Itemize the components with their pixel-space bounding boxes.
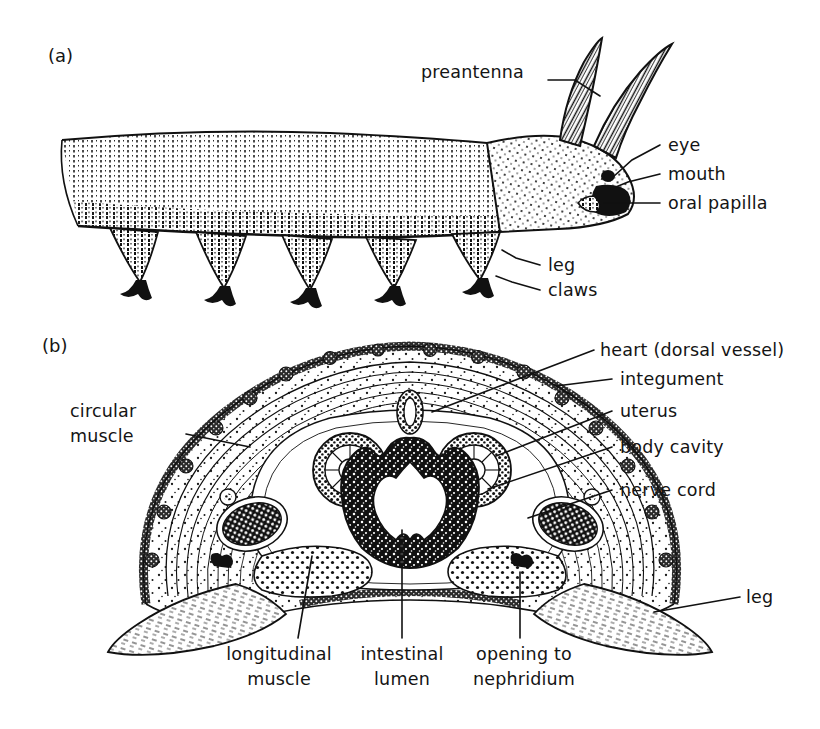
label-preantenna: preantenna [421,62,524,82]
label-heart-dorsal-vessel: heart (dorsal vessel) [600,340,784,360]
panel-b-caption: (b) [42,335,67,356]
label-opening-to-nephridium-line2: nephridium [473,669,575,689]
longitudinal-muscle-right-shape [448,546,566,597]
label-mouth: mouth [668,164,726,184]
label-eye: eye [668,135,701,155]
heart-dorsal-vessel-shape [397,390,423,434]
panel-a-caption: (a) [48,45,73,66]
label-integument: integument [620,369,724,389]
label-opening-to-nephridium-line1: opening to [476,644,572,664]
label-longitudinal-muscle-line2: muscle [247,669,311,689]
label-leg-a: leg [548,255,575,275]
label-circular-muscle-line2: muscle [70,426,134,446]
label-oral-papilla: oral papilla [668,193,768,213]
intestine-shape [341,438,479,568]
longitudinal-muscle-left-shape [254,546,372,597]
label-circular-muscle-line1: circular [70,401,137,421]
label-intestinal-lumen-line1: intestinal [360,644,443,664]
label-leg-b: leg [746,587,773,607]
figure-onychophoran-anatomy: (a) [0,0,820,729]
label-intestinal-lumen-line2: lumen [374,669,430,689]
label-nerve-cord: nerve cord [620,480,716,500]
label-claws: claws [548,280,598,300]
label-longitudinal-muscle-line1: longitudinal [226,644,332,664]
figure-canvas: (a) [0,0,820,729]
eye-shape [601,170,615,182]
label-body-cavity: body cavity [620,437,724,457]
label-uterus: uterus [620,401,677,421]
